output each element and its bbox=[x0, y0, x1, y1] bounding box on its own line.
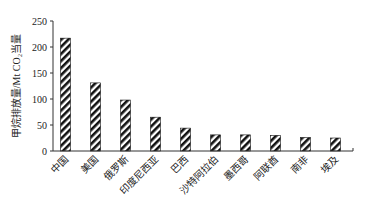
y-tick-label: 150 bbox=[32, 68, 47, 79]
bar-2 bbox=[121, 100, 131, 151]
x-axis: 中国美国俄罗斯印度尼西亚巴西沙特阿拉伯墨西哥阿联酋南非埃及 bbox=[48, 148, 353, 197]
bars bbox=[61, 38, 341, 151]
y-tick-label: 200 bbox=[32, 42, 47, 53]
y-tick-label: 0 bbox=[42, 146, 47, 157]
x-category-label: 巴西 bbox=[169, 154, 191, 176]
bar-3 bbox=[151, 117, 161, 151]
bar-6 bbox=[241, 135, 251, 151]
bar-0 bbox=[61, 38, 71, 151]
x-category-label: 南非 bbox=[288, 153, 311, 176]
x-category-label: 中国 bbox=[48, 153, 71, 176]
bar-4 bbox=[181, 128, 191, 151]
x-category-label: 俄罗斯 bbox=[101, 153, 131, 183]
bar-8 bbox=[301, 137, 311, 151]
x-category-label: 阿联酋 bbox=[251, 153, 281, 183]
x-category-label: 美国 bbox=[78, 153, 101, 176]
bar-5 bbox=[211, 135, 221, 151]
bar-1 bbox=[91, 83, 101, 151]
y-axis: 050100150200250 bbox=[32, 16, 53, 157]
y-tick-label: 100 bbox=[32, 94, 47, 105]
methane-emissions-bar-chart: 050100150200250 中国美国俄罗斯印度尼西亚巴西沙特阿拉伯墨西哥阿联… bbox=[0, 0, 367, 214]
bar-7 bbox=[271, 135, 281, 151]
x-category-label: 墨西哥 bbox=[222, 154, 251, 183]
y-axis-label: 甲烷排放量/Mt CO₂当量 bbox=[10, 34, 22, 138]
y-tick-label: 250 bbox=[32, 16, 47, 27]
y-tick-label: 50 bbox=[37, 120, 47, 131]
x-category-label: 埃及 bbox=[318, 153, 341, 176]
bar-9 bbox=[331, 138, 341, 151]
